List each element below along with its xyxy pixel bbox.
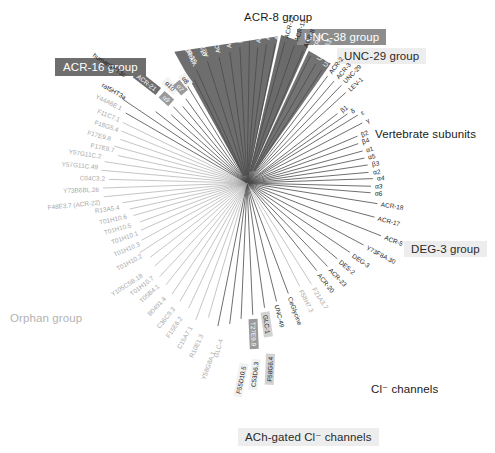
group-label-orphan-group: Orphan group xyxy=(10,312,82,324)
group-label-ach-gated-cl-channels: ACh-gated Cl⁻ channels xyxy=(238,428,379,446)
tree-branch xyxy=(103,183,247,188)
tree-branch xyxy=(241,183,247,319)
tree-branch xyxy=(150,183,247,257)
tree-branch xyxy=(247,183,328,266)
tree-branch xyxy=(134,183,247,216)
leaf-label: α4 xyxy=(377,175,385,182)
leaf-label: ACR-14 xyxy=(246,14,253,37)
group-label-vertebrate-subunits: Vertebrate subunits xyxy=(375,128,476,140)
tree-branch xyxy=(247,183,300,286)
tree-branch xyxy=(196,183,247,320)
leaf-label: EAT-2 xyxy=(235,26,243,44)
tree-branch xyxy=(208,183,247,318)
tree-branch xyxy=(180,183,247,301)
group-label-unc29-group: UNC-29 group xyxy=(337,48,426,64)
leaf-label: T27E9.9 xyxy=(248,319,258,350)
group-label-cl-channels: Cl⁻ channels xyxy=(371,382,438,396)
leaf-label: Y73B6BL.26 xyxy=(63,186,99,194)
group-label-deg3-group: DEG-3 group xyxy=(404,241,487,257)
leaf-label: α6 xyxy=(374,190,382,198)
tree-branch xyxy=(247,183,337,259)
leaf-label: F58G6.4 xyxy=(265,354,275,385)
leaf-label: C04C3.2 xyxy=(80,174,105,182)
figure-canvas: ACR-16 groupACR-8 groupUNC-38 groupUNC-2… xyxy=(0,0,495,453)
tree-branch xyxy=(140,183,247,222)
tree-branch xyxy=(160,183,247,277)
